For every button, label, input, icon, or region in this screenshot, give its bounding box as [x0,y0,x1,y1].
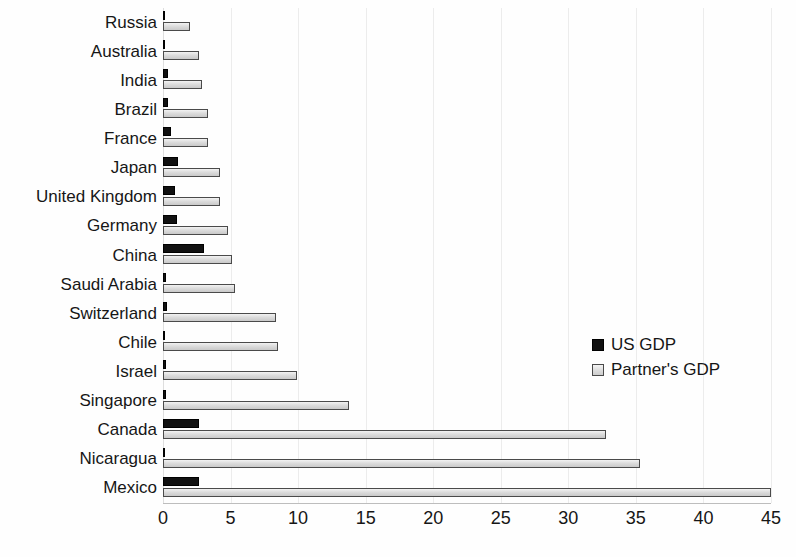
bar-row [163,124,771,153]
bar-partner-gdp [163,371,297,380]
bar-row [163,445,771,474]
bar-partner-gdp [163,80,202,89]
bar-us-gdp [163,448,165,457]
x-tick-label: 25 [491,509,511,527]
bar-us-gdp [163,244,204,253]
x-tick-label: 5 [226,509,236,527]
bar-partner-gdp [163,459,640,468]
category-label: Israel [0,363,157,380]
bar-partner-gdp [163,197,220,206]
bar-us-gdp [163,127,171,136]
bar-partner-gdp [163,109,208,118]
bar-us-gdp [163,302,167,311]
bar-partner-gdp [163,51,199,60]
bar-row [163,416,771,445]
category-label: Russia [0,14,157,31]
bar-us-gdp [163,11,165,20]
x-tick-label: 0 [158,509,168,527]
bar-row [163,183,771,212]
bar-partner-gdp [163,138,208,147]
category-label: Canada [0,421,157,438]
category-label: France [0,130,157,147]
bar-us-gdp [163,390,166,399]
category-label: Mexico [0,479,157,496]
category-label: United Kingdom [0,188,157,205]
legend-label: Partner's GDP [611,361,720,378]
bar-us-gdp [163,273,166,282]
bar-row [163,241,771,270]
bar-partner-gdp [163,168,220,177]
category-label: Brazil [0,101,157,118]
bar-us-gdp [163,360,166,369]
bar-chart: RussiaAustraliaIndiaBrazilFranceJapanUni… [0,0,796,557]
category-label: Saudi Arabia [0,276,157,293]
plot-area [163,8,771,503]
bar-partner-gdp [163,342,278,351]
bar-partner-gdp [163,284,235,293]
legend-entry: US GDP [592,332,720,357]
category-label: China [0,247,157,264]
bar-us-gdp [163,69,168,78]
legend-entry: Partner's GDP [592,357,720,382]
outlined-gray-square-icon [592,364,604,376]
x-tick-label: 30 [558,509,578,527]
bar-rows [163,8,771,503]
bar-row [163,8,771,37]
bar-partner-gdp [163,401,349,410]
bar-row [163,474,771,503]
bar-partner-gdp [163,488,771,497]
category-label: Singapore [0,392,157,409]
bar-partner-gdp [163,22,190,31]
bar-row [163,212,771,241]
x-tick-label: 10 [288,509,308,527]
chart-legend: US GDPPartner's GDP [592,332,720,382]
category-label: Switzerland [0,305,157,322]
bar-row [163,154,771,183]
x-tick-label: 15 [356,509,376,527]
bar-partner-gdp [163,255,232,264]
bar-us-gdp [163,98,168,107]
bar-us-gdp [163,331,165,340]
bar-row [163,95,771,124]
x-tick-label: 20 [423,509,443,527]
x-axis-ticks: 051015202530354045 [0,509,796,539]
x-tick-label: 45 [761,509,781,527]
category-label: Japan [0,159,157,176]
gridline [771,8,772,503]
category-label: Germany [0,217,157,234]
bar-us-gdp [163,215,177,224]
bar-us-gdp [163,477,199,486]
bar-us-gdp [163,419,199,428]
bar-us-gdp [163,186,175,195]
x-axis-line [163,503,771,504]
bar-partner-gdp [163,313,276,322]
legend-label: US GDP [611,336,676,353]
category-axis-labels: RussiaAustraliaIndiaBrazilFranceJapanUni… [0,8,157,503]
bar-row [163,270,771,299]
bar-row [163,66,771,95]
bar-partner-gdp [163,226,228,235]
x-tick-label: 40 [693,509,713,527]
x-tick-label: 35 [626,509,646,527]
bar-row [163,299,771,328]
category-label: Australia [0,43,157,60]
bar-us-gdp [163,157,178,166]
filled-black-square-icon [592,339,604,351]
bar-partner-gdp [163,430,606,439]
bar-row [163,387,771,416]
category-label: Nicaragua [0,450,157,467]
category-label: Chile [0,334,157,351]
bar-us-gdp [163,40,165,49]
bar-row [163,37,771,66]
category-label: India [0,72,157,89]
